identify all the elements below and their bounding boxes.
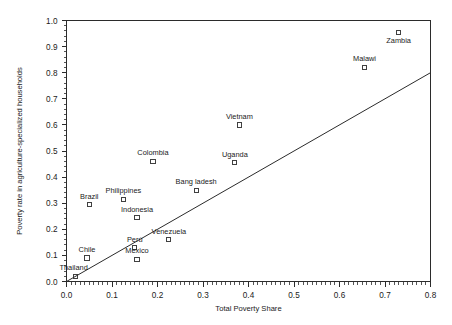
point-marker-square-icon (87, 202, 91, 206)
y-tick-label: 0.5 (46, 147, 58, 156)
data-point: Venezuela (152, 227, 187, 242)
point-marker-square-icon (194, 188, 198, 192)
y-tick-label: 1.0 (46, 17, 58, 26)
point-marker-square-icon (362, 65, 366, 69)
data-point: Brazil (80, 192, 99, 207)
x-tick-label: 0.2 (152, 291, 164, 300)
data-point: Uganda (222, 150, 249, 165)
y-tick-label: 0.6 (46, 121, 58, 130)
point-label: Brazil (80, 192, 99, 201)
data-point: Indonesia (121, 205, 154, 220)
trend-line (67, 73, 431, 282)
data-points-group: ThailandChileBrazilPhilippinesIndonesiaP… (59, 30, 411, 278)
point-marker-square-icon (85, 256, 89, 260)
x-tick-label: 0.8 (425, 291, 437, 300)
point-label: Chile (79, 245, 96, 254)
y-tick-label: 0.4 (46, 173, 58, 182)
x-tick-label: 0.5 (288, 291, 300, 300)
point-marker-square-icon (121, 197, 125, 201)
y-tick-label: 0.8 (46, 69, 58, 78)
x-tick-label: 0.1 (106, 291, 118, 300)
point-marker-square-icon (237, 123, 241, 127)
axis-titles-group: Total Poverty SharePoverty rate in agric… (15, 67, 282, 312)
x-tick-label: 0.6 (334, 291, 346, 300)
point-label: Zambia (386, 36, 412, 45)
point-label: Indonesia (121, 205, 154, 214)
plot-canvas: 0.00.10.20.30.40.50.60.70.80.00.10.20.30… (0, 0, 452, 325)
data-point: Chile (79, 245, 96, 260)
data-point: Philippines (106, 186, 142, 201)
point-label: Venezuela (152, 227, 187, 236)
point-label: Thailand (59, 263, 87, 272)
regression-line (67, 73, 431, 282)
point-marker-square-icon (233, 161, 237, 165)
data-point: Zambia (386, 30, 412, 45)
y-tick-label: 0.0 (46, 278, 58, 287)
y-tick-label: 0.7 (46, 95, 58, 104)
point-marker-square-icon (135, 257, 139, 261)
y-axis-title: Poverty rate in agriculture-specialized … (15, 67, 24, 235)
point-label: Mexico (125, 246, 148, 255)
x-tick-label: 0.3 (197, 291, 209, 300)
y-tick-label: 0.9 (46, 43, 58, 52)
x-axis-title: Total Poverty Share (215, 304, 281, 313)
x-tick-label: 0.0 (61, 291, 73, 300)
x-tick-label: 0.4 (243, 291, 255, 300)
y-tick-label: 0.1 (46, 251, 58, 260)
point-label: Philippines (106, 186, 142, 195)
point-marker-square-icon (397, 30, 401, 34)
point-label: Uganda (222, 150, 249, 159)
scatter-plot-figure: 0.00.10.20.30.40.50.60.70.80.00.10.20.30… (0, 0, 452, 325)
data-point: Malawi (353, 54, 376, 69)
y-tick-label: 0.2 (46, 225, 58, 234)
data-point: Vietnam (226, 112, 253, 127)
x-tick-label: 0.7 (379, 291, 391, 300)
point-label: Malawi (353, 54, 376, 63)
data-point: Bang ladesh (176, 177, 217, 192)
y-tick-label: 0.3 (46, 199, 58, 208)
point-marker-square-icon (135, 215, 139, 219)
point-label: Colombia (137, 148, 169, 157)
point-label: Bang ladesh (176, 177, 217, 186)
data-point: Mexico (125, 246, 148, 261)
point-marker-square-icon (167, 238, 171, 242)
data-point: Colombia (137, 148, 169, 163)
point-label: Vietnam (226, 112, 253, 121)
point-label: Perú (127, 235, 143, 244)
point-marker-square-icon (151, 159, 155, 163)
